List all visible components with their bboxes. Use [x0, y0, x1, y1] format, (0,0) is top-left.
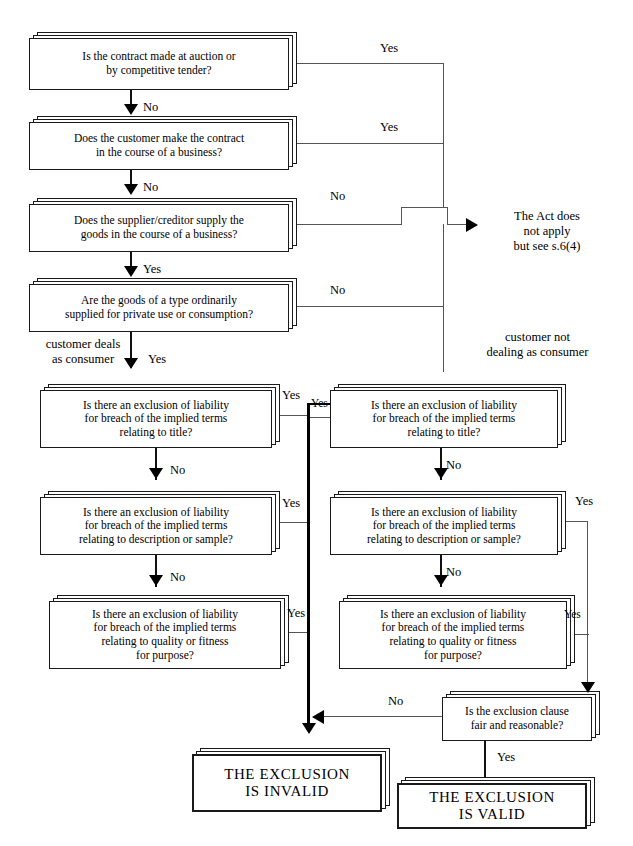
- label-left-title-no: No: [170, 463, 185, 477]
- label-q2-no: No: [143, 180, 158, 194]
- label-right-title-yes: Yes: [311, 397, 328, 410]
- q2-yes-line-h: [289, 143, 444, 144]
- label-fair-no: No: [388, 694, 403, 708]
- right-bus-arrowhead: [581, 682, 595, 693]
- label-left-desc-yes: Yes: [282, 496, 300, 510]
- question-box-right-quality[interactable]: Is there an exclusion of liability for b…: [339, 601, 567, 669]
- q2-text: Does the customer make the contract in t…: [70, 132, 248, 159]
- left-qual-text: Is there an exclusion of liability for b…: [88, 608, 242, 662]
- q3-no-line-h3: [447, 224, 468, 225]
- label-fair-yes: Yes: [497, 750, 515, 764]
- right-trunk-upper: [443, 63, 444, 207]
- right-desc-text: Is there an exclusion of liability for b…: [363, 506, 525, 547]
- q2-no-arrowhead: [124, 184, 138, 195]
- fair-text: Is the exclusion clause fair and reasona…: [461, 705, 573, 732]
- question-box-right-description[interactable]: Is there an exclusion of liability for b…: [330, 497, 558, 555]
- question-box-supplier-business[interactable]: Does the supplier/creditor supply the go…: [29, 204, 289, 252]
- question-box-fair-reasonable[interactable]: Is the exclusion clause fair and reasona…: [442, 697, 592, 741]
- question-box-customer-business[interactable]: Does the customer make the contract in t…: [29, 122, 289, 170]
- label-q1-no: No: [143, 100, 158, 114]
- flowchart-canvas: Is the contract made at auction or by co…: [0, 0, 633, 846]
- label-q4-yes: Yes: [148, 352, 166, 366]
- outcome-act-does-not-apply: The Act does not apply but see s.6(4): [482, 209, 612, 254]
- q3-no-line-h2: [401, 207, 448, 208]
- label-q3-no: No: [330, 189, 345, 203]
- q3-text: Does the supplier/creditor supply the go…: [70, 214, 248, 241]
- label-right-desc-yes: Yes: [575, 494, 593, 508]
- left-desc-no-arrowhead: [149, 575, 163, 586]
- left-title-text: Is there an exclusion of liability for b…: [79, 399, 233, 440]
- question-box-goods-private-use[interactable]: Are the goods of a type ordinarily suppl…: [29, 284, 289, 332]
- right-title-text: Is there an exclusion of liability for b…: [367, 399, 521, 440]
- q3-no-line-v-down: [447, 207, 448, 225]
- right-title-yes-line: [310, 417, 332, 418]
- label-right-title-no: No: [446, 458, 461, 472]
- left-title-no-arrowhead: [149, 468, 163, 479]
- invalid-text: THE EXCLUSION IS INVALID: [220, 766, 354, 800]
- label-q1-yes: Yes: [380, 41, 398, 55]
- label-left-title-yes: Yes: [282, 388, 300, 402]
- q1-yes-line-h: [289, 63, 444, 64]
- question-box-right-title[interactable]: Is there an exclusion of liability for b…: [330, 390, 558, 448]
- right-qual-text: Is there an exclusion of liability for b…: [376, 608, 530, 662]
- label-q3-yes: Yes: [143, 262, 161, 276]
- question-box-left-quality[interactable]: Is there an exclusion of liability for b…: [49, 601, 281, 669]
- label-q2-yes: Yes: [380, 120, 398, 134]
- valid-text: THE EXCLUSION IS VALID: [425, 789, 559, 823]
- q3-no-line-v-up: [401, 207, 402, 225]
- right-trunk-lower: [443, 224, 444, 372]
- outcome-box-exclusion-invalid[interactable]: THE EXCLUSION IS INVALID: [192, 754, 382, 812]
- label-q4-no: No: [330, 283, 345, 297]
- label-left-desc-no: No: [170, 570, 185, 584]
- question-box-left-title[interactable]: Is there an exclusion of liability for b…: [40, 390, 272, 448]
- q3-yes-arrowhead: [124, 266, 138, 277]
- note-customer-not-dealing: customer not dealing as consumer: [455, 330, 620, 360]
- q4-text: Are the goods of a type ordinarily suppl…: [61, 294, 257, 321]
- question-box-auction-tender[interactable]: Is the contract made at auction or by co…: [29, 38, 289, 90]
- right-bus-vertical: [587, 521, 588, 686]
- label-right-qual-yes: Yes: [564, 608, 581, 621]
- outcome-box-exclusion-valid[interactable]: THE EXCLUSION IS VALID: [397, 783, 587, 829]
- q1-no-arrowhead: [124, 104, 138, 115]
- invalid-collector-trunk: [307, 403, 310, 728]
- left-desc-text: Is there an exclusion of liability for b…: [75, 506, 237, 547]
- label-left-qual-yes: Yes: [287, 606, 305, 620]
- label-right-desc-no: No: [446, 565, 461, 579]
- invalid-trunk-arrowhead: [302, 723, 316, 734]
- fair-no-arrowhead: [312, 710, 324, 724]
- question-box-left-description[interactable]: Is there an exclusion of liability for b…: [40, 497, 272, 555]
- q1-text: Is the contract made at auction or by co…: [78, 50, 239, 77]
- note-customer-deals-as-consumer: customer deals as consumer: [38, 337, 128, 367]
- q3-no-line-h1: [289, 224, 402, 225]
- q4-no-line-h: [289, 306, 444, 307]
- fair-no-line: [322, 716, 442, 717]
- act-not-apply-arrowhead: [466, 218, 478, 232]
